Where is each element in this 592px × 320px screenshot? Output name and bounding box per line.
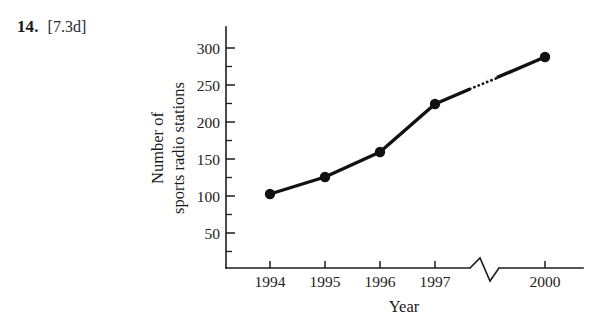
y-tick-label-200: 200 bbox=[197, 114, 221, 131]
data-point-1996 bbox=[375, 147, 385, 157]
x-axis-tick-labels: 1994 1995 1996 1997 2000 bbox=[255, 273, 561, 290]
data-point-1994 bbox=[265, 189, 275, 199]
x-axis-title: Year bbox=[389, 297, 420, 316]
x-tick-label-1996: 1996 bbox=[365, 273, 396, 290]
line-chart-figure: 300 250 200 150 100 50 1994 1995 1996 19… bbox=[0, 0, 592, 320]
x-tick-label-1994: 1994 bbox=[255, 273, 286, 290]
y-axis-tick-labels: 300 250 200 150 100 50 bbox=[197, 40, 221, 242]
x-tick-label-2000: 2000 bbox=[530, 273, 561, 290]
y-tick-label-50: 50 bbox=[205, 225, 221, 242]
data-point-2000 bbox=[540, 52, 550, 62]
x-tick-label-1995: 1995 bbox=[310, 273, 341, 290]
y-tick-label-150: 150 bbox=[197, 151, 221, 168]
y-axis-title: Number of sports radio stations bbox=[148, 82, 188, 214]
x-tick-label-1997: 1997 bbox=[420, 273, 451, 290]
data-point-1995 bbox=[320, 172, 330, 182]
chart-series-line bbox=[270, 57, 545, 194]
y-tick-label-250: 250 bbox=[197, 77, 221, 94]
y-tick-label-100: 100 bbox=[197, 188, 221, 205]
x-axis-ticks bbox=[270, 261, 545, 268]
y-axis-title-line-2: sports radio stations bbox=[169, 82, 188, 214]
x-axis-break-symbol bbox=[470, 258, 499, 281]
data-point-1997 bbox=[430, 99, 440, 109]
y-axis-ticks bbox=[226, 48, 235, 252]
y-axis-title-line-1: Number of bbox=[148, 112, 167, 184]
y-tick-label-300: 300 bbox=[197, 40, 221, 57]
series-polyline bbox=[270, 57, 545, 194]
